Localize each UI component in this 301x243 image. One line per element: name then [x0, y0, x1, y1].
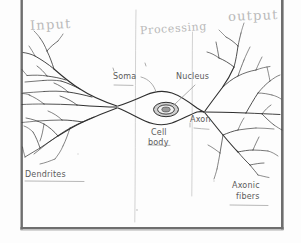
label-soma: Soma: [113, 72, 136, 82]
label-cell-body-line1: Cell: [151, 128, 167, 138]
label-cell-body-line2: body: [148, 138, 169, 148]
axon-tree: [204, 23, 282, 179]
diagram-canvas: Input Processing output Soma Nucleus Cel…: [0, 0, 301, 243]
label-dendrites: Dendrites: [25, 170, 66, 180]
label-axonic-fibers-line1: Axonic: [232, 181, 260, 191]
label-nucleus: Nucleus: [176, 72, 209, 82]
dendrite-tree: [22, 31, 117, 164]
label-axonic-fibers-line2: fibers: [236, 192, 260, 202]
pencil-specks: [77, 153, 215, 211]
zone-label-input: Input: [30, 16, 72, 33]
label-axon: Axon: [190, 115, 211, 125]
zone-label-output: output: [228, 7, 279, 24]
